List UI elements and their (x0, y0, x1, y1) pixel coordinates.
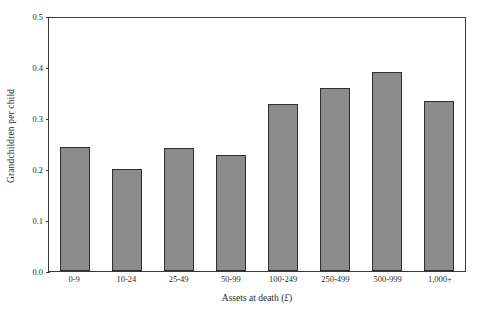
x-tick-label: 50-99 (205, 274, 257, 284)
bar (164, 148, 194, 271)
y-tick-label: 0.2 (32, 165, 43, 175)
x-tick-label: 250-499 (309, 274, 361, 284)
y-tick-label: 0.1 (32, 216, 43, 226)
x-axis-title-text: Assets at death ( (222, 293, 285, 303)
y-tick-label: 0.4 (32, 63, 43, 73)
x-tick-label: 0-9 (48, 274, 100, 284)
x-tick-label: 10-24 (100, 274, 152, 284)
plot-area (48, 17, 466, 272)
y-axis-title-text: Grandchildren per child (6, 89, 16, 183)
bar (216, 155, 246, 271)
y-axis-tick-labels: 0.00.10.20.30.40.5 (20, 0, 46, 290)
x-tick-label: 1,000+ (414, 274, 466, 284)
bar (112, 169, 142, 271)
y-tick-label: 0.0 (32, 267, 43, 277)
y-tick-label: 0.5 (32, 12, 43, 22)
y-axis-title: Grandchildren per child (0, 0, 22, 272)
bar-series (49, 18, 465, 271)
x-axis-title: Assets at death (£) (48, 293, 466, 303)
bar (60, 147, 90, 271)
y-tick-mark (46, 272, 50, 273)
bar-chart-figure: Grandchildren per child 0.00.10.20.30.40… (0, 0, 481, 325)
bar (268, 104, 298, 271)
bar (372, 72, 402, 271)
bar (424, 101, 454, 271)
x-axis-title-suffix: ) (289, 293, 292, 303)
x-tick-label: 100-249 (257, 274, 309, 284)
y-tick-label: 0.3 (32, 114, 43, 124)
x-axis-tick-labels: 0-910-2425-4950-99100-249250-499500-9991… (48, 274, 466, 290)
x-tick-label: 500-999 (362, 274, 414, 284)
bar (320, 88, 350, 271)
x-tick-label: 25-49 (153, 274, 205, 284)
